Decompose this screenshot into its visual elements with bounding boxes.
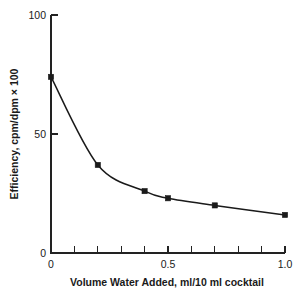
y-axis-label: Efficiency, cpm/dpm × 100	[8, 68, 20, 199]
data-point-0	[48, 74, 53, 79]
x-tick-label-0: 0	[48, 258, 54, 270]
data-point-1	[95, 162, 100, 167]
y-tick-label-100: 100	[28, 9, 46, 21]
efficiency-vs-water-volume-chart: 100 50 0 0 0.5 1.0 Volume Water Added, m…	[0, 0, 303, 298]
y-tick-label-0: 0	[40, 247, 46, 259]
x-tick-label-0-5: 0.5	[161, 258, 176, 270]
y-tick-label-50: 50	[34, 128, 46, 140]
data-point-2	[142, 189, 147, 194]
data-point-5	[282, 212, 287, 217]
x-tick-label-1-0: 1.0	[278, 258, 293, 270]
data-point-4	[212, 203, 217, 208]
data-point-3	[165, 196, 170, 201]
x-axis-label: Volume Water Added, ml/10 ml cocktail	[70, 276, 264, 288]
